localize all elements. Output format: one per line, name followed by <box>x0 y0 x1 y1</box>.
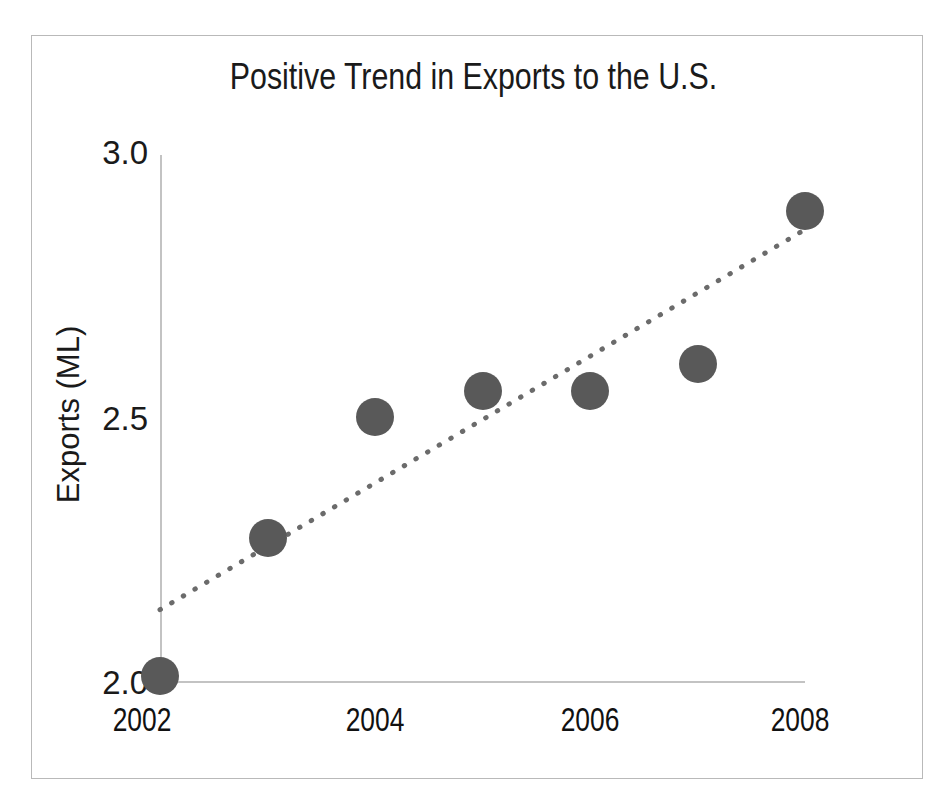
y-tick-2-0: 2.0 <box>36 666 148 699</box>
y-tick-label: 3.0 <box>36 136 148 169</box>
data-point <box>679 345 717 383</box>
x-tick-2008: 2008 <box>744 701 856 739</box>
data-point <box>141 657 179 695</box>
y-tick-3-0: 3.0 <box>36 136 148 169</box>
x-tick-2006: 2006 <box>534 701 646 739</box>
y-tick-label: 2.0 <box>36 666 148 699</box>
chart-figure: Positive Trend in Exports to the U.S. Ex… <box>0 0 947 803</box>
x-tick-2004: 2004 <box>319 701 431 739</box>
x-tick-2002: 2002 <box>86 701 198 739</box>
data-point <box>786 192 824 230</box>
data-point <box>249 519 287 557</box>
x-axis-line <box>160 681 805 683</box>
plot-area: Exports (ML) 3.0 2.5 2.0 2002 2004 2006 … <box>0 0 947 803</box>
y-axis-line <box>160 155 162 682</box>
data-point <box>464 372 502 410</box>
data-point <box>571 372 609 410</box>
y-tick-2-5: 2.5 <box>36 402 148 435</box>
y-tick-label: 2.5 <box>36 402 148 435</box>
data-point <box>356 398 394 436</box>
